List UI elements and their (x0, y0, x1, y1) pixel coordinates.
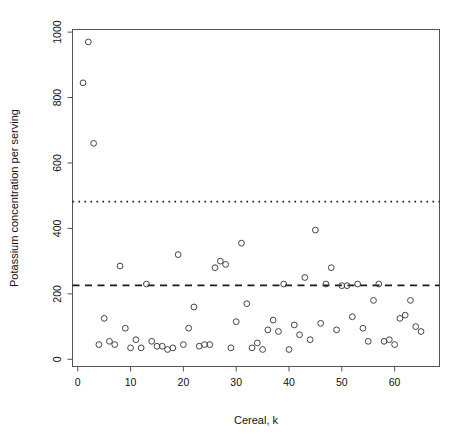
y-tick-label: 0 (51, 356, 63, 362)
y-tick-label: 800 (51, 89, 63, 107)
x-tick-label: 50 (336, 376, 348, 388)
x-tick-label: 10 (125, 376, 137, 388)
scatter-plot-figure: 02004006008001000 0102030405060 Cereal, … (0, 0, 459, 440)
x-tick-label: 60 (389, 376, 401, 388)
y-tick-label: 600 (51, 154, 63, 172)
x-tick-label: 40 (283, 376, 295, 388)
x-tick-label: 20 (178, 376, 190, 388)
x-tick-label: 0 (75, 376, 81, 388)
x-axis-title: Cereal, k (234, 414, 279, 426)
x-tick-label: 30 (230, 376, 242, 388)
y-tick-label: 200 (51, 285, 63, 303)
plot-canvas: 02004006008001000 0102030405060 Cereal, … (0, 0, 459, 440)
y-tick-label: 400 (51, 220, 63, 238)
y-axis-title: Potassium concentration per serving (8, 109, 20, 287)
y-tick-label: 1000 (51, 20, 63, 44)
figure-background (0, 0, 459, 440)
